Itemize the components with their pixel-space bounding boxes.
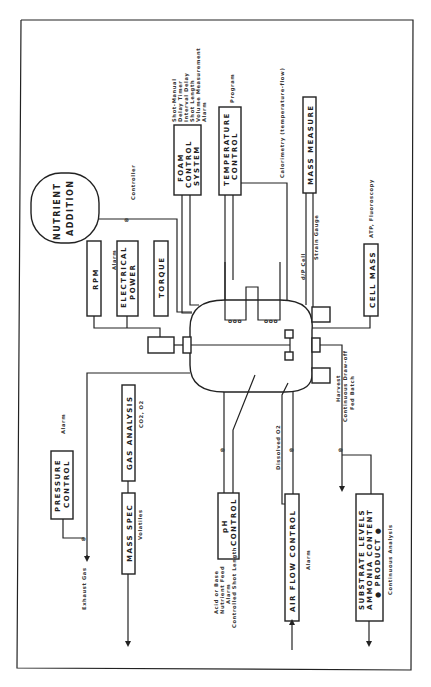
gas-analysis-label: GAS ANALYSIS: [126, 396, 134, 470]
svg-text:Alarm: Alarm: [201, 102, 207, 122]
foam-label-3: SYSTEM: [193, 145, 201, 186]
svg-text:⊗: ⊗: [124, 216, 130, 223]
electrical-label-2: POWER: [129, 264, 137, 300]
impeller-blade-bottom: [285, 352, 293, 360]
atp-note: ATP, Fluoroscopy: [368, 179, 375, 238]
substrate-label-2: AMMONIA CONTENT: [366, 509, 374, 610]
air-flow-label: AIR FLOW CONTROL: [289, 510, 297, 612]
alarm-electrical: Alarm: [111, 250, 117, 270]
foam-label-1: FOAM: [177, 153, 185, 182]
strain-gauge-note: Strain Gauge: [313, 215, 320, 260]
temperature-label-1: TEMPERATURE: [223, 112, 231, 186]
nutrient-label-1: NUTRIENT: [53, 183, 62, 240]
temperature-label-2: CONTROL: [231, 132, 239, 180]
alarm-pressure: Alarm: [60, 414, 66, 434]
foam-notes: Shot-Manual Delay Timer Interval Delay S…: [171, 48, 207, 122]
electrical-label-1: ELECTRICAL: [120, 246, 128, 308]
program-note: Program: [229, 74, 236, 103]
sensor-box-lower: [312, 368, 330, 383]
motor: [148, 337, 174, 353]
svg-text:ooo: ooo: [264, 317, 278, 324]
svg-text:⊗: ⊗: [289, 446, 295, 453]
harvest-notes: Harvest Continuous Draw-off Fed Batch: [335, 350, 355, 422]
svg-text:⊗: ⊗: [220, 446, 226, 453]
svg-text:Controlled Shot Length: Controlled Shot Length: [231, 547, 238, 628]
svg-text:⊗: ⊗: [81, 535, 87, 542]
calorimetry-note: Calorimetry (temperature-flow): [279, 68, 286, 178]
alarm-air: Alarm: [305, 550, 311, 570]
dissolved-o2-note: Dissolved O2: [275, 425, 281, 470]
fermenter-vessel: [190, 300, 312, 392]
substrate-label-3: ● PRODUCT ●: [374, 527, 382, 598]
pressure-label-2: CONTROL: [63, 460, 71, 508]
foam-label-2: CONTROL: [185, 140, 193, 188]
mass-spec-label: MASS SPEC: [126, 504, 134, 562]
nutrient-label-2: ADDITION: [66, 180, 75, 236]
mass-measure-label: MASS MEASURE: [307, 104, 315, 185]
volatiles-note: Volatiles: [137, 509, 143, 540]
shaft-seal-right: [312, 338, 320, 352]
rpm-label: RPM: [92, 268, 100, 290]
foam-line-2: [190, 195, 199, 305]
torque-label: TORQUE: [158, 256, 166, 298]
svg-text:ooo: ooo: [228, 317, 242, 324]
controller-note: Controller: [130, 165, 136, 200]
impeller-blade-top: [285, 330, 293, 338]
svg-text:Fed Batch: Fed Batch: [349, 376, 355, 410]
exhaust-gas-note: Exhaust Gas: [81, 567, 87, 610]
ph-label-2: CONTROL: [230, 498, 238, 546]
co2-o2-note: CO2, O2: [138, 400, 144, 428]
sensor-box-upper: [312, 307, 330, 322]
ph-label-1: pH: [221, 519, 229, 533]
bioreactor-diagram: ooo ooo NUTRIENT ADDITION Controller ⊗ F…: [0, 0, 431, 687]
cell-mass-label: CELL MASS: [369, 251, 377, 308]
shaft-seal-left: [183, 337, 191, 353]
substrate-label-1: SUBSTRATE LEVELS: [358, 509, 366, 610]
nutrient-addition-block: [31, 173, 99, 243]
svg-text:Continuous Draw-off: Continuous Draw-off: [342, 350, 348, 422]
svg-text:Harvest: Harvest: [335, 375, 341, 402]
pressure-label-1: PRESSURE: [54, 459, 62, 512]
dp-cell-note: d/P Cell: [300, 253, 306, 280]
svg-text:⊗: ⊗: [338, 446, 344, 453]
continuous-analysis-note: Continuous Analysis: [387, 524, 394, 595]
